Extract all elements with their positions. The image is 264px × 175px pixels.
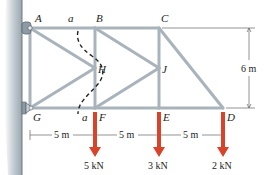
joint-label-H: H (97, 63, 107, 75)
truss-members (30, 28, 223, 108)
joint-label-B: B (96, 12, 103, 24)
section-label-bottom: a (82, 111, 88, 123)
joint-label-A: A (34, 12, 42, 24)
height-dimension-label: 6 m (241, 63, 257, 74)
member-BJ (95, 28, 159, 68)
member-GH (30, 68, 95, 108)
section-label-top: a (68, 12, 74, 24)
joint-label-J: J (162, 63, 168, 75)
joint-label-F: F (98, 111, 106, 123)
span-label-2: 5 m (119, 129, 135, 140)
load-label-D: 2 kN (212, 160, 232, 171)
member-CD (159, 28, 223, 108)
load-label-E: 3 kN (148, 160, 168, 171)
joint-label-C: C (161, 12, 169, 24)
span-label-3: 5 m (183, 129, 199, 140)
joint-label-E: E (162, 111, 170, 123)
span-label-1: 5 m (54, 129, 70, 140)
truss-diagram: a a A B C G F E D H J 6 m 5 m 5 m 5 m 5 (0, 0, 264, 175)
joint-label-D: D (226, 111, 235, 123)
load-label-F: 5 kN (84, 160, 104, 171)
pin-support-A (22, 22, 32, 34)
member-AH (30, 28, 95, 68)
joint-label-G: G (33, 111, 41, 123)
wall-support (4, 0, 22, 175)
